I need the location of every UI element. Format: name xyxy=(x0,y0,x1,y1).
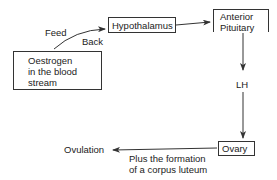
anterior-pituitary-box: Anterior Pituitary xyxy=(213,9,269,32)
hypothalamus-label: Hypothalamus xyxy=(112,20,173,31)
hypothalamus-box: Hypothalamus xyxy=(108,17,176,33)
oestrogen-box: Oestrogen in the blood stream xyxy=(13,51,102,90)
anterior-label: Anterior xyxy=(220,11,268,22)
oestrogen-line-3: stream xyxy=(28,77,101,88)
corpus-luteum-line-2: of a corpus luteum xyxy=(129,164,207,175)
ovulation-label: Ovulation xyxy=(64,144,104,155)
ovary-label: Ovary xyxy=(222,143,247,154)
oestrogen-line-1: Oestrogen xyxy=(28,55,101,66)
hypothalamus-to-pituitary-arrow xyxy=(176,22,210,25)
back-label: Back xyxy=(82,36,103,47)
oestrogen-line-2: in the blood xyxy=(28,66,101,77)
feed-label: Feed xyxy=(45,27,67,38)
corpus-luteum-line-1: Plus the formation xyxy=(129,153,206,164)
ovary-to-ovulation-arrow xyxy=(113,148,217,150)
pituitary-label: Pituitary xyxy=(220,22,268,33)
lh-label: LH xyxy=(236,79,248,90)
ovary-box: Ovary xyxy=(218,141,255,156)
